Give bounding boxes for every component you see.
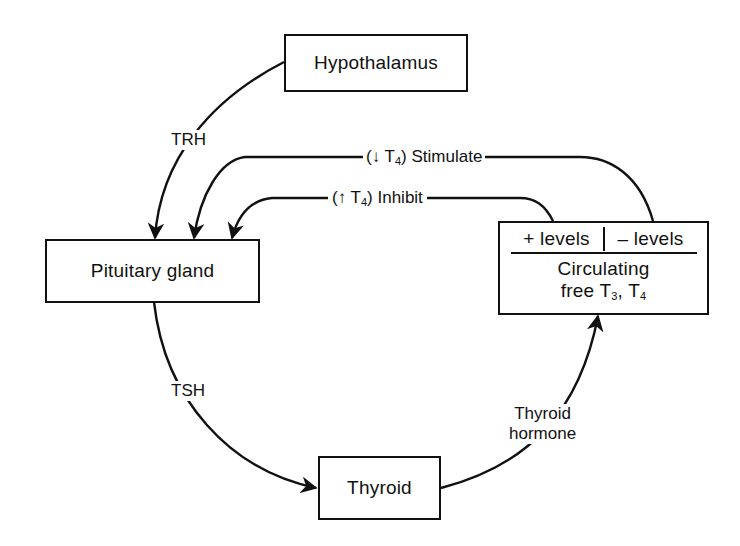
thyroid-label: Thyroid — [347, 477, 412, 499]
hypothalamus-label: Hypothalamus — [314, 52, 438, 74]
plus-levels-label: + levels — [511, 227, 605, 251]
t4-subscript: 4 — [640, 290, 646, 302]
levels-row: + levels – levels — [511, 227, 697, 254]
trh-arrow — [155, 62, 284, 238]
thyroid-hormone-line2: hormone — [509, 424, 576, 444]
free-t-prefix: free T — [561, 280, 611, 301]
pituitary-node: Pituitary gland — [45, 239, 260, 303]
inhibit-label: (↑ T4) Inhibit — [328, 188, 427, 212]
circulating-node: + levels – levels Circulating free T3, T… — [498, 221, 709, 315]
inhibit-prefix: (↑ T — [332, 188, 361, 207]
stimulate-label: (↓ T4) Stimulate — [363, 147, 485, 171]
thyroid-hormone-arrow — [441, 316, 598, 488]
tsh-text: TSH — [171, 381, 205, 400]
t-separator: , T — [618, 280, 640, 301]
thyroid-hormone-label: Thyroid hormone — [506, 404, 579, 444]
stimulate-prefix: (↓ T — [366, 147, 395, 166]
stimulate-suffix: ) Stimulate — [401, 147, 482, 166]
circulating-label: Circulating — [558, 258, 650, 280]
hypothalamus-node: Hypothalamus — [284, 34, 468, 92]
trh-label: TRH — [171, 130, 206, 150]
trh-text: TRH — [171, 130, 206, 149]
tsh-label: TSH — [171, 381, 205, 401]
thyroid-hormone-line1: Thyroid — [509, 404, 576, 424]
thyroid-node: Thyroid — [318, 456, 441, 520]
pituitary-label: Pituitary gland — [91, 260, 214, 282]
minus-levels-label: – levels — [605, 227, 697, 251]
inhibit-suffix: ) Inhibit — [367, 188, 423, 207]
free-t3-t4-label: free T3, T4 — [561, 280, 647, 307]
